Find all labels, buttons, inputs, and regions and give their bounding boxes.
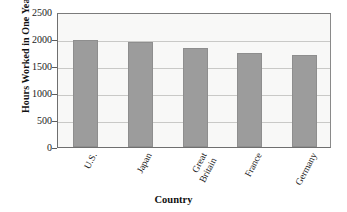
bar: [237, 53, 262, 148]
chart-figure: Hours Worked in One Year 050010001500200…: [0, 0, 347, 212]
y-axis-tick-label: 1000: [6, 89, 52, 99]
y-axis-tick-label: 2500: [6, 8, 52, 18]
bar: [128, 42, 153, 147]
y-axis-tick-mark: [52, 148, 57, 149]
x-axis-title: Country: [0, 194, 347, 205]
y-axis-tick-label: 500: [6, 116, 52, 126]
bar: [73, 40, 98, 147]
bar: [183, 48, 208, 147]
bar: [292, 55, 317, 147]
gridline: [58, 41, 330, 42]
plot-area: [57, 13, 331, 148]
y-axis-tick-label: 0: [6, 143, 52, 153]
y-axis-tick-label: 2000: [6, 35, 52, 45]
y-axis-tick-label: 1500: [6, 62, 52, 72]
